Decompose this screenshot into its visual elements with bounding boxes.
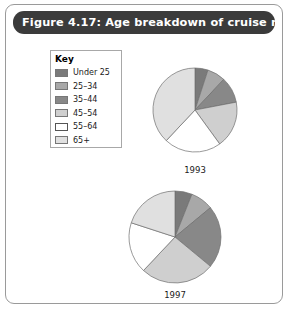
legend-label-45-54: 45–54 — [73, 109, 97, 118]
figure-title-banner: Figure 4.17: Age breakdown of cruise mar… — [13, 11, 275, 34]
figure-frame: Figure 4.17: Age breakdown of cruise mar… — [5, 4, 283, 304]
legend-swatch-45-54 — [55, 109, 68, 117]
pie-caption-1993: 1993 — [152, 165, 238, 175]
pie-caption-1997: 1997 — [122, 290, 228, 300]
legend-label-under-25: Under 25 — [73, 68, 110, 77]
chart-legend: Key Under 25 25–34 35–44 45–54 55–64 65+ — [50, 50, 122, 148]
legend-item-45-54: 45–54 — [55, 107, 121, 120]
legend-label-35-44: 35–44 — [73, 95, 97, 104]
legend-title: Key — [55, 54, 121, 64]
pie-chart-1997 — [122, 187, 228, 287]
legend-swatch-35-44 — [55, 96, 68, 104]
legend-swatch-under-25 — [55, 69, 68, 77]
legend-label-25-34: 25–34 — [73, 82, 97, 91]
legend-swatch-55-64 — [55, 123, 68, 131]
legend-item-55-64: 55–64 — [55, 120, 121, 133]
legend-label-65-plus: 65+ — [73, 136, 90, 145]
legend-label-55-64: 55–64 — [73, 122, 97, 131]
legend-swatch-65-plus — [55, 136, 68, 144]
legend-swatch-25-34 — [55, 82, 68, 90]
pie-chart-1993-svg — [152, 62, 238, 160]
pie-chart-1993 — [152, 62, 238, 160]
pie-chart-1997-svg — [122, 187, 228, 287]
legend-item-35-44: 35–44 — [55, 93, 121, 106]
legend-item-under-25: Under 25 — [55, 66, 121, 79]
legend-item-65-plus: 65+ — [55, 134, 121, 147]
legend-item-25-34: 25–34 — [55, 80, 121, 93]
